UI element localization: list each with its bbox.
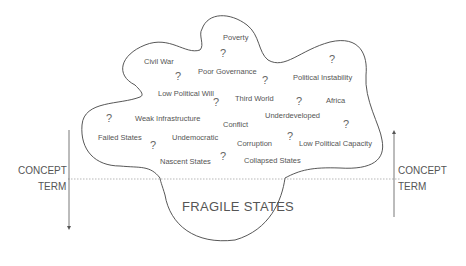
concept-label: Civil War — [144, 57, 174, 66]
question-mark-icon: ? — [213, 96, 219, 108]
concept-label: Conflict — [223, 120, 248, 129]
concept-label: Weak Infrastructure — [135, 114, 200, 123]
concept-label: Nascent States — [160, 157, 211, 166]
concept-label: Underdeveloped — [265, 111, 320, 120]
concept-label: Poor Governance — [198, 67, 257, 76]
concept-label: Africa — [326, 96, 345, 105]
left-concept-label: CONCEPT — [18, 165, 67, 176]
left-term-label: TERM — [38, 181, 66, 192]
concept-label: Failed States — [98, 133, 142, 142]
concept-label: Collapsed States — [244, 156, 301, 165]
question-mark-icon: ? — [343, 118, 349, 130]
arrow-down-icon — [67, 226, 71, 230]
right-concept-label: CONCEPT — [398, 165, 447, 176]
question-mark-icon: ? — [106, 112, 112, 124]
concept-label: Political Instability — [293, 73, 352, 82]
concept-label: Poverty — [223, 33, 248, 42]
fragile-states-title: FRAGILE STATES — [182, 199, 294, 214]
arrow-up-icon — [392, 130, 396, 134]
concept-label: Third World — [235, 94, 274, 103]
concept-label: Low Political Will — [158, 89, 214, 98]
right-term-label: TERM — [398, 181, 426, 192]
question-mark-icon: ? — [287, 130, 293, 142]
question-mark-icon: ? — [220, 47, 226, 59]
question-mark-icon: ? — [262, 74, 268, 86]
concept-label: Undemocratic — [172, 133, 218, 142]
question-mark-icon: ? — [329, 53, 335, 65]
question-mark-icon: ? — [175, 70, 181, 82]
question-mark-icon: ? — [220, 150, 226, 162]
question-mark-icon: ? — [150, 139, 156, 151]
concept-label: Corruption — [237, 139, 272, 148]
concept-label: Low Political Capacity — [299, 139, 372, 148]
question-mark-icon: ? — [296, 95, 302, 107]
